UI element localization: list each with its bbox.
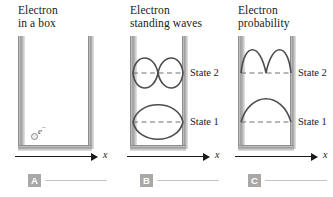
panel-badge-c: C (248, 174, 261, 187)
panel-badge-a: A (28, 174, 41, 187)
axis-arrowhead (311, 153, 318, 161)
panel-c-badge-row: C (248, 174, 328, 188)
axis-line (15, 156, 92, 157)
state-1-wave (133, 105, 183, 122)
probability-curves-svg (238, 36, 294, 149)
panel-b-badge-row: B (140, 174, 220, 188)
panel-c-state-1-label: State 1 (298, 116, 327, 127)
panel-b-state-1-label: State 1 (190, 116, 219, 127)
badge-rule (265, 180, 327, 181)
panel-a: Electron in a box e− x A (0, 0, 112, 197)
electron-in-a-box-figure: Electron in a box e− x A Electron standi… (0, 0, 333, 197)
badge-rule (157, 180, 219, 181)
electron-label: e− (38, 124, 46, 136)
panel-a-box: e− (18, 36, 92, 149)
box-wall-bottom (18, 145, 92, 152)
axis-line (235, 156, 312, 157)
panel-b-box (130, 36, 186, 149)
panel-a-title: Electron in a box (18, 4, 58, 30)
state-1-wave-mirror (133, 122, 183, 139)
panel-b-title: Electron standing waves (130, 4, 202, 30)
badge-rule (45, 180, 107, 181)
panel-a-axis: x (15, 152, 101, 162)
standing-waves-svg (130, 36, 186, 149)
axis-arrowhead (91, 153, 98, 161)
box-wall-right (88, 36, 95, 149)
axis-arrowhead (203, 153, 210, 161)
panel-b: Electron standing waves State 2 State 1 … (112, 0, 222, 197)
panel-b-state-2-label: State 2 (190, 67, 219, 78)
panel-a-badge-row: A (28, 174, 108, 188)
axis-label-x: x (103, 149, 107, 160)
electron-charge: − (42, 124, 46, 132)
panel-c-state-2-label: State 2 (298, 67, 327, 78)
box-wall-left (18, 36, 25, 149)
electron-dot (31, 133, 38, 140)
state-1-probability (241, 99, 291, 122)
panel-c: Electron probability State 2 State 1 x C (222, 0, 333, 197)
axis-line (127, 156, 204, 157)
panel-c-axis: x (235, 152, 321, 162)
axis-label-x: x (323, 149, 327, 160)
panel-c-box (238, 36, 294, 149)
state-2-probability (241, 50, 291, 73)
axis-label-x: x (215, 149, 219, 160)
panel-badge-b: B (140, 174, 153, 187)
panel-b-axis: x (127, 152, 213, 162)
panel-c-title: Electron probability (238, 4, 290, 30)
